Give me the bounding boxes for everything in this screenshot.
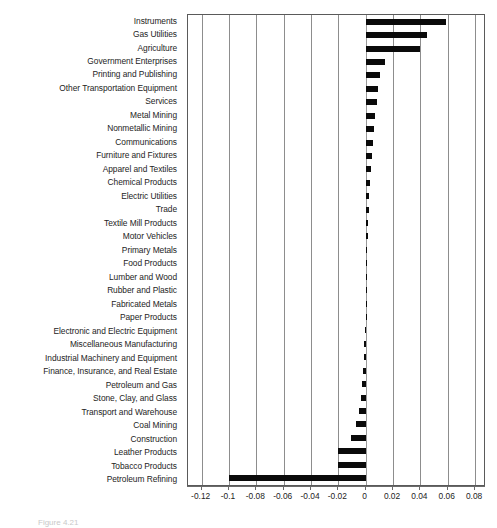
x-axis-tick-label: 0 bbox=[362, 492, 367, 500]
bar bbox=[362, 381, 366, 387]
bar bbox=[366, 99, 377, 105]
category-label: Trade bbox=[0, 203, 182, 216]
category-label: Services bbox=[0, 95, 182, 108]
category-label: Textile Mill Products bbox=[0, 216, 182, 229]
x-axis-tick-label: -0.08 bbox=[246, 492, 265, 500]
category-label: Industrial Machinery and Equipment bbox=[0, 351, 182, 364]
category-label: Leather Products bbox=[0, 446, 182, 459]
category-label: Apparel and Textiles bbox=[0, 162, 182, 175]
category-label: Agriculture bbox=[0, 41, 182, 54]
x-axis-tick-label: -0.02 bbox=[328, 492, 347, 500]
category-label: Transport and Warehouse bbox=[0, 405, 182, 418]
category-label-axis: InstrumentsGas UtilitiesAgricultureGover… bbox=[0, 14, 182, 486]
category-label: Petroleum and Gas bbox=[0, 378, 182, 391]
x-axis-tick bbox=[392, 486, 393, 490]
bar-row bbox=[188, 96, 484, 109]
bar bbox=[364, 341, 365, 347]
bar bbox=[366, 166, 371, 172]
category-label: Gas Utilities bbox=[0, 27, 182, 40]
bar-row bbox=[188, 136, 484, 149]
x-axis-tick bbox=[201, 486, 202, 490]
bar bbox=[364, 354, 366, 360]
bar bbox=[366, 180, 370, 186]
bar-row bbox=[188, 270, 484, 283]
bar bbox=[366, 113, 375, 119]
bar-row bbox=[188, 297, 484, 310]
bar-row bbox=[188, 324, 484, 337]
category-label: Electric Utilities bbox=[0, 189, 182, 202]
bar-row bbox=[188, 15, 484, 28]
bar bbox=[366, 140, 373, 146]
category-label: Other Transportation Equipment bbox=[0, 81, 182, 94]
bar-row bbox=[188, 351, 484, 364]
x-axis-tick-label: 0.08 bbox=[466, 492, 482, 500]
category-label: Communications bbox=[0, 135, 182, 148]
bar-row bbox=[188, 149, 484, 162]
bar-row bbox=[188, 458, 484, 471]
figure-caption: Figure 4.21 bbox=[38, 518, 78, 527]
x-axis-tick bbox=[310, 486, 311, 490]
bar bbox=[366, 126, 374, 132]
plot-area bbox=[187, 14, 485, 486]
bar bbox=[366, 207, 369, 213]
x-axis-tick-label: 0.04 bbox=[411, 492, 427, 500]
x-axis-tick bbox=[337, 486, 338, 490]
bar bbox=[366, 247, 368, 253]
bar bbox=[356, 421, 366, 427]
bar-row bbox=[188, 404, 484, 417]
bar-row bbox=[188, 418, 484, 431]
category-label: Rubber and Plastic bbox=[0, 284, 182, 297]
bar bbox=[366, 287, 367, 293]
x-axis-tick bbox=[365, 486, 366, 490]
bar-row bbox=[188, 283, 484, 296]
bar-row bbox=[188, 471, 484, 484]
bar-row bbox=[188, 28, 484, 41]
bar bbox=[366, 72, 380, 78]
category-label: Nonmetallic Mining bbox=[0, 122, 182, 135]
bar bbox=[366, 301, 367, 307]
bar bbox=[359, 408, 366, 414]
category-label: Motor Vehicles bbox=[0, 230, 182, 243]
bar bbox=[366, 46, 421, 52]
bar bbox=[366, 153, 372, 159]
bar bbox=[366, 193, 370, 199]
x-axis-tick-label: 0.06 bbox=[439, 492, 455, 500]
category-label: Government Enterprises bbox=[0, 54, 182, 67]
category-label: Finance, Insurance, and Real Estate bbox=[0, 365, 182, 378]
x-axis: -0.12-0.1-0.08-0.06-0.04-0.0200.020.040.… bbox=[187, 486, 485, 512]
category-label: Paper Products bbox=[0, 311, 182, 324]
category-label: Fabricated Metals bbox=[0, 297, 182, 310]
bar bbox=[366, 32, 428, 38]
category-label: Miscellaneous Manufacturing bbox=[0, 338, 182, 351]
x-axis-tick bbox=[474, 486, 475, 490]
category-label: Tobacco Products bbox=[0, 459, 182, 472]
bar-row bbox=[188, 243, 484, 256]
category-label: Electronic and Electric Equipment bbox=[0, 324, 182, 337]
bar bbox=[365, 327, 366, 333]
category-label: Stone, Clay, and Glass bbox=[0, 392, 182, 405]
category-label: Furniture and Fixtures bbox=[0, 149, 182, 162]
category-label: Construction bbox=[0, 432, 182, 445]
bar-row bbox=[188, 176, 484, 189]
bar-row bbox=[188, 391, 484, 404]
category-label: Food Products bbox=[0, 257, 182, 270]
bar-row bbox=[188, 69, 484, 82]
category-label: Petroleum Refining bbox=[0, 472, 182, 485]
bar-series bbox=[188, 15, 484, 485]
bar-row bbox=[188, 122, 484, 135]
bar bbox=[366, 220, 368, 226]
category-label: Coal Mining bbox=[0, 419, 182, 432]
category-label: Primary Metals bbox=[0, 243, 182, 256]
bar-row bbox=[188, 42, 484, 55]
bar-row bbox=[188, 216, 484, 229]
bar-row bbox=[188, 445, 484, 458]
bar bbox=[361, 395, 366, 401]
bar-row bbox=[188, 230, 484, 243]
bar-row bbox=[188, 82, 484, 95]
bar-row bbox=[188, 310, 484, 323]
x-axis-tick-label: 0.02 bbox=[384, 492, 400, 500]
bar bbox=[363, 368, 366, 374]
bar bbox=[366, 314, 367, 320]
category-label: Instruments bbox=[0, 14, 182, 27]
bar bbox=[338, 462, 366, 468]
